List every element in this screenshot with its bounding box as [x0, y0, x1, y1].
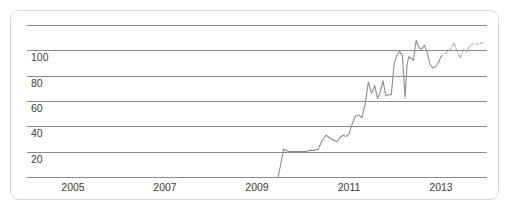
x-tick-label-2005: 2005	[61, 181, 85, 193]
y-tick-label-40: 40	[31, 127, 43, 139]
y-tick-label-80: 80	[31, 77, 43, 89]
x-tick-label-2013: 2013	[429, 181, 453, 193]
y-tick-label-20: 20	[31, 153, 43, 165]
gridlines-group	[27, 26, 487, 178]
y-tick-label-60: 60	[31, 102, 43, 114]
series-line-observed	[278, 40, 441, 177]
series-group	[278, 40, 482, 177]
y-axis-labels: 20406080100	[31, 51, 49, 164]
chart-root: 20406080100 20052007200920112013	[0, 0, 513, 214]
x-tick-label-2007: 2007	[153, 181, 177, 193]
x-tick-label-2009: 2009	[245, 181, 269, 193]
x-axis-labels: 20052007200920112013	[61, 181, 453, 193]
y-tick-label-100: 100	[31, 51, 49, 63]
x-tick-label-2011: 2011	[338, 181, 361, 193]
line-chart: 20406080100 20052007200920112013	[0, 0, 513, 214]
